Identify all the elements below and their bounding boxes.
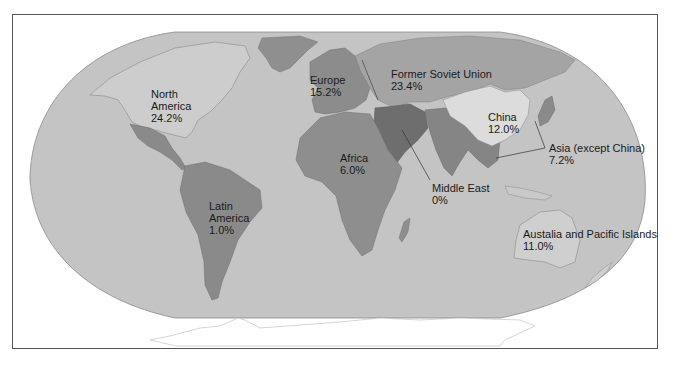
- label-australia-pacific: Austalia and Pacific Islands 11.0%: [523, 228, 657, 252]
- label-europe: Europe 15.2%: [310, 74, 345, 98]
- label-latin-america: Latin America 1.0%: [209, 200, 249, 236]
- label-china: China 12.0%: [488, 111, 519, 135]
- label-north-america: North America 24.2%: [151, 88, 191, 124]
- label-former-soviet-union: Former Soviet Union 23.4%: [391, 68, 492, 92]
- antarctica: [150, 318, 535, 346]
- world-map: [0, 0, 686, 381]
- label-asia-except-china: Asia (except China) 7.2%: [549, 142, 645, 166]
- label-middle-east: Middle East 0%: [432, 182, 489, 206]
- label-africa: Africa 6.0%: [340, 152, 368, 176]
